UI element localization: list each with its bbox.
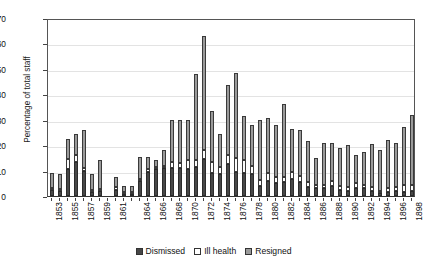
bar-segment-resigned (194, 74, 199, 160)
bar-1870 (186, 120, 191, 196)
x-tick-mark (307, 198, 308, 201)
bar-segment-dismissed (346, 191, 351, 196)
bar-segment-resigned (410, 115, 415, 185)
y-tick-label: 40 (0, 91, 6, 99)
bar-segment-resigned (138, 157, 143, 179)
x-tick-mark (379, 198, 380, 201)
bar-1889 (338, 148, 343, 196)
bar-1876 (234, 73, 239, 196)
x-tick-mark (171, 198, 172, 201)
bar-segment-illhealth (210, 162, 215, 173)
legend-item-resigned: Resigned (245, 246, 291, 256)
y-tick-label: 20 (0, 142, 6, 150)
bar-1855 (66, 139, 71, 196)
bar-1865 (146, 157, 151, 196)
bar-1885 (306, 141, 311, 196)
bar-segment-resigned (90, 174, 95, 190)
bar-segment-dismissed (410, 191, 415, 196)
bar-segment-dismissed (322, 188, 327, 196)
x-tick-label: 1886 (319, 202, 328, 221)
bar-segment-resigned (314, 158, 319, 185)
bar-segment-dismissed (122, 194, 127, 196)
bar-1862 (122, 186, 127, 196)
bar-segment-dismissed (282, 182, 287, 196)
x-tick-mark (275, 198, 276, 201)
bar-segment-dismissed (202, 159, 207, 196)
plot-area (47, 19, 415, 197)
bar-1890 (346, 145, 351, 196)
bar-1878 (250, 125, 255, 196)
bar-segment-dismissed (130, 194, 135, 196)
x-tick-mark (147, 198, 148, 201)
bar-segment-illhealth (250, 166, 255, 175)
x-tick-mark (251, 198, 252, 201)
bar-segment-resigned (298, 130, 303, 176)
bar-1863 (130, 186, 135, 196)
bar-segment-dismissed (178, 168, 183, 196)
bar-segment-resigned (330, 143, 335, 181)
bar-1883 (290, 129, 295, 196)
y-tick-label: 10 (0, 168, 6, 176)
bar-1854 (58, 174, 63, 196)
legend-swatch-resigned (245, 248, 252, 255)
x-tick-mark (211, 198, 212, 201)
legend-swatch-ill-health (194, 248, 201, 255)
x-tick-mark (267, 198, 268, 201)
bar-segment-dismissed (362, 188, 367, 196)
bar-segment-dismissed (194, 167, 199, 196)
bar-segment-dismissed (378, 193, 383, 196)
x-tick-label: 1884 (303, 202, 312, 221)
x-tick-label: 1874 (223, 202, 232, 221)
bar-segment-illhealth (402, 185, 407, 193)
bar-segment-resigned (338, 148, 343, 186)
y-tick-label: 70 (0, 15, 6, 23)
bar-segment-illhealth (202, 150, 207, 159)
bar-1898 (410, 115, 415, 196)
x-tick-label: 1872 (207, 202, 216, 221)
x-tick-label: 1866 (159, 202, 168, 221)
x-tick-mark (107, 198, 108, 201)
bar-segment-illhealth (234, 158, 239, 172)
x-tick-label: 1864 (143, 202, 152, 221)
bar-segment-resigned (282, 104, 287, 176)
bar-1880 (266, 118, 271, 196)
bar-1877 (242, 116, 247, 196)
y-tick-label: 50 (0, 66, 6, 74)
bar-segment-resigned (402, 127, 407, 184)
bar-1895 (386, 140, 391, 196)
legend-swatch-dismissed (136, 248, 143, 255)
bar-1896 (394, 143, 399, 196)
x-tick-mark (243, 198, 244, 201)
x-tick-mark (91, 198, 92, 201)
bar-1882 (282, 104, 287, 196)
bar-segment-illhealth (266, 173, 271, 181)
x-tick-mark (75, 198, 76, 201)
x-tick-mark (155, 198, 156, 201)
bar-segment-dismissed (370, 191, 375, 196)
x-tick-mark (99, 198, 100, 201)
bar-segment-resigned (250, 125, 255, 166)
x-tick-mark (347, 198, 348, 201)
bar-segment-dismissed (274, 183, 279, 196)
x-tick-mark (195, 198, 196, 201)
bar-segment-dismissed (386, 192, 391, 196)
bar-segment-dismissed (218, 174, 223, 196)
bar-segment-resigned (186, 120, 191, 161)
bar-segment-resigned (306, 141, 311, 182)
x-tick-label: 1890 (351, 202, 360, 221)
x-tick-mark (339, 198, 340, 201)
bar-segment-resigned (178, 120, 183, 163)
legend-label-resigned: Resigned (255, 246, 291, 256)
x-tick-label: 1896 (399, 202, 408, 221)
bar-1894 (378, 150, 383, 196)
bar-segment-resigned (146, 157, 151, 170)
bar-segment-dismissed (402, 192, 407, 196)
bar-segment-dismissed (146, 172, 151, 196)
x-tick-label: 1888 (335, 202, 344, 221)
bar-segment-dismissed (226, 164, 231, 196)
bar-1881 (274, 125, 279, 196)
x-tick-label: 1882 (287, 202, 296, 221)
bar-1857 (82, 130, 87, 196)
x-tick-mark (411, 198, 412, 201)
y-tick-label: 60 (0, 40, 6, 48)
